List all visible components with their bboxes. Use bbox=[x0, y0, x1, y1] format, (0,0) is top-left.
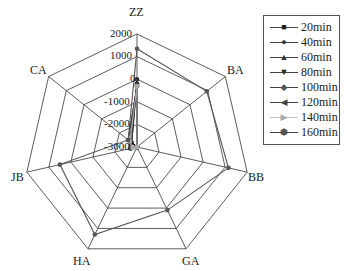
tick-0: 0 bbox=[130, 72, 136, 84]
legend-item-60min: ▲60min bbox=[264, 50, 339, 64]
triangle-left-marker-icon: ◀ bbox=[279, 97, 289, 107]
tick-2000: 2000 bbox=[110, 27, 132, 39]
triangle-down-marker-icon: ▼ bbox=[279, 67, 289, 77]
axis-label-bb: BB bbox=[248, 170, 264, 185]
data-point bbox=[226, 166, 231, 171]
legend-item-20min: ■20min bbox=[264, 20, 339, 34]
data-point bbox=[204, 89, 209, 94]
tick-minus-3000: -3000 bbox=[104, 140, 130, 152]
axis-spoke bbox=[137, 147, 186, 249]
data-point bbox=[135, 46, 140, 51]
data-point bbox=[93, 232, 98, 237]
hexagon-marker-icon: ⬢ bbox=[279, 127, 289, 137]
axis-label-ca: CA bbox=[30, 63, 47, 78]
axis-label-ba: BA bbox=[227, 63, 244, 78]
data-point bbox=[130, 146, 135, 151]
axis-label-ha: HA bbox=[73, 254, 90, 269]
series-line bbox=[130, 86, 137, 148]
data-point bbox=[135, 145, 140, 150]
axis-label-jb: JB bbox=[11, 170, 24, 185]
legend-item-160min: ⬢160min bbox=[264, 125, 339, 139]
data-point bbox=[165, 208, 170, 213]
triangle-up-marker-icon: ▲ bbox=[279, 52, 289, 62]
tick-minus-2000: -2000 bbox=[104, 117, 130, 129]
triangle-right-marker-icon: ▶ bbox=[279, 112, 289, 122]
data-point bbox=[135, 84, 140, 89]
data-point bbox=[58, 162, 63, 167]
axis-label-ga: GA bbox=[182, 254, 199, 269]
legend: ■20min ●40min ▲60min ▼80min ◆100min ◀120… bbox=[263, 15, 340, 145]
tick-minus-1000: -1000 bbox=[104, 95, 130, 107]
legend-item-40min: ●40min bbox=[264, 35, 339, 49]
square-marker-icon: ■ bbox=[279, 22, 289, 32]
diamond-marker-icon: ◆ bbox=[279, 82, 289, 92]
tick-1000: 1000 bbox=[110, 49, 132, 61]
circle-marker-icon: ● bbox=[279, 37, 289, 47]
legend-item-140min: ▶140min bbox=[264, 110, 339, 124]
axis-label-zz: ZZ bbox=[129, 5, 144, 20]
legend-item-120min: ◀120min bbox=[264, 95, 339, 109]
legend-item-80min: ▼80min bbox=[264, 65, 339, 79]
legend-item-100min: ◆100min bbox=[264, 80, 339, 94]
